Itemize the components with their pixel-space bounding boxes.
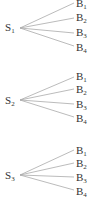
target-node-s2-b3-subscript: 3 — [83, 104, 87, 112]
source-node-s2-subscript: 2 — [11, 100, 15, 108]
source-node-s3-subscript: 3 — [11, 175, 15, 183]
edge-s3-b2 — [20, 163, 74, 175]
target-node-s1-b2: B2 — [76, 12, 87, 27]
edge-s2-b3 — [20, 100, 74, 104]
edge-s3-b3 — [20, 175, 74, 177]
target-node-s2-b2: B2 — [76, 84, 87, 99]
target-node-s3-b4-subscript: 4 — [83, 191, 87, 199]
source-node-s1-subscript: 1 — [11, 27, 15, 35]
target-node-s1-b3-subscript: 3 — [83, 32, 87, 40]
target-node-s2-b4: B4 — [76, 113, 87, 128]
edge-s3-b1 — [20, 150, 74, 175]
target-node-s2-b1-subscript: 1 — [83, 76, 87, 84]
target-node-s2-b4-subscript: 4 — [83, 118, 87, 126]
target-node-s3-b1-subscript: 1 — [83, 150, 87, 158]
target-node-s1-b3: B3 — [76, 27, 87, 42]
target-node-s1-b2-subscript: 2 — [83, 17, 87, 25]
edge-s3-b4 — [20, 175, 74, 190]
source-node-s2: S2 — [5, 95, 15, 110]
target-node-s1-b4: B4 — [76, 42, 87, 57]
source-node-s1: S1 — [5, 22, 15, 37]
target-node-s3-b2-subscript: 2 — [83, 163, 87, 171]
edge-s2-b4 — [20, 100, 74, 117]
target-node-s2-b2-subscript: 2 — [83, 89, 87, 97]
edge-s2-b1 — [20, 77, 74, 100]
target-node-s1-b4-subscript: 4 — [83, 47, 87, 55]
target-node-s3-b3-subscript: 3 — [83, 177, 87, 185]
target-node-s1-b1-subscript: 1 — [83, 3, 87, 11]
target-node-s3-b4: B4 — [76, 186, 87, 201]
edge-s1-b2 — [20, 18, 74, 28]
source-node-s3: S3 — [5, 170, 15, 185]
edge-s2-b2 — [20, 89, 74, 100]
edge-s1-b1 — [20, 3, 74, 28]
